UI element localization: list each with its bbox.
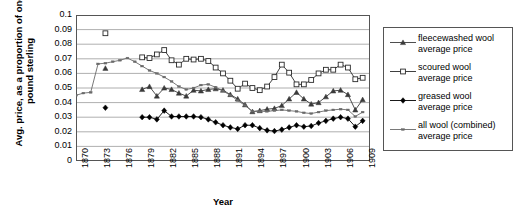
data-point-small-dash — [163, 76, 166, 78]
data-point-open-square — [140, 55, 145, 60]
data-point-small-dash — [347, 109, 350, 111]
data-point-small-dash — [76, 94, 77, 96]
series-small-dash — [76, 57, 364, 117]
legend-label: scoured woolaverage price — [418, 62, 473, 84]
data-point-small-dash — [207, 83, 210, 85]
data-point-open-square — [250, 86, 255, 91]
data-point-filled-diamond — [309, 123, 314, 129]
data-point-filled-diamond — [265, 128, 270, 134]
data-point-filled-triangle — [103, 66, 108, 71]
data-point-filled-diamond — [250, 122, 255, 128]
x-tick-label: 1906 — [345, 148, 355, 168]
legend-label: all wool (combined)average price — [418, 120, 496, 142]
x-tick-label: 1909 — [367, 148, 377, 168]
legend-marker-open-square-icon — [388, 63, 418, 74]
y-tick-label: 0.08 — [32, 39, 72, 48]
data-point-open-square — [309, 78, 314, 83]
legend-label-line1: scoured wool — [418, 62, 473, 73]
data-point-small-dash — [266, 110, 269, 112]
x-tick-label: 1885 — [190, 148, 200, 168]
y-tick-label: 0.02 — [32, 127, 72, 136]
data-point-filled-diamond — [221, 122, 226, 128]
data-point-small-dash — [82, 92, 85, 94]
data-point-open-square — [243, 81, 248, 86]
data-point-filled-triangle — [345, 92, 350, 97]
data-point-open-square — [154, 52, 159, 57]
data-point-open-square — [331, 67, 336, 72]
data-point-filled-diamond — [243, 122, 248, 128]
data-point-small-dash — [229, 94, 232, 96]
data-point-small-dash — [280, 109, 283, 111]
data-point-small-dash — [178, 86, 181, 88]
data-point-open-square — [360, 75, 365, 80]
data-point-small-dash — [310, 113, 313, 115]
data-point-open-square — [279, 62, 284, 67]
y-tick-label: 0.07 — [32, 54, 72, 63]
data-point-filled-diamond — [272, 128, 277, 134]
legend-label: greased woolaverage price — [418, 91, 473, 113]
legend-item: greased woolaverage price — [388, 91, 508, 117]
data-point-filled-diamond — [140, 114, 145, 120]
data-point-filled-diamond — [213, 120, 218, 126]
y-tick-label: 0.06 — [32, 68, 72, 77]
data-point-open-square — [147, 56, 152, 61]
x-tick-label: 1894 — [256, 148, 266, 168]
data-point-open-square — [228, 78, 233, 83]
data-point-filled-diamond — [228, 125, 233, 131]
legend-item: scoured woolaverage price — [388, 62, 508, 88]
data-point-small-dash — [288, 110, 291, 112]
data-point-open-square — [184, 56, 189, 61]
data-point-open-square — [272, 75, 277, 80]
x-tick-label: 1876 — [124, 148, 134, 168]
x-axis-tick-labels: 1870187318761879188218851888189118941897… — [76, 164, 376, 198]
data-point-filled-triangle — [294, 90, 299, 95]
legend-label-line2: average price — [418, 44, 494, 55]
data-point-small-dash — [126, 57, 129, 59]
y-tick-label: 0.04 — [32, 98, 72, 107]
chart-container: Avg. price, as a proportion of one pound… — [0, 0, 521, 216]
x-tick-label: 1879 — [146, 148, 156, 168]
x-axis-title: Year — [76, 196, 370, 207]
data-point-open-square — [162, 48, 167, 53]
data-point-small-dash — [119, 59, 122, 61]
data-point-small-dash — [97, 63, 100, 65]
data-point-open-square — [324, 67, 329, 72]
data-point-small-dash — [325, 110, 328, 112]
data-point-small-dash — [170, 81, 173, 83]
data-point-small-dash — [402, 129, 405, 131]
data-point-small-dash — [214, 86, 217, 88]
x-tick-label: 1891 — [234, 148, 244, 168]
data-point-small-dash — [133, 61, 136, 63]
data-point-small-dash — [295, 110, 298, 112]
data-point-small-dash — [244, 105, 247, 107]
data-point-open-square — [191, 57, 196, 62]
data-point-open-square — [353, 77, 358, 82]
x-tick-label: 1900 — [301, 148, 311, 168]
data-point-filled-diamond — [287, 125, 292, 131]
x-tick-label: 1873 — [102, 148, 112, 168]
data-point-filled-diamond — [331, 116, 336, 122]
data-point-filled-diamond — [257, 125, 262, 131]
data-point-open-square — [294, 82, 299, 87]
data-point-filled-diamond — [198, 114, 203, 120]
x-tick-label: 1903 — [323, 148, 333, 168]
x-tick-label: 1897 — [278, 148, 288, 168]
data-point-filled-diamond — [184, 114, 189, 120]
data-point-open-square — [213, 65, 218, 70]
data-point-small-dash — [192, 87, 195, 89]
data-point-open-square — [301, 82, 306, 87]
data-point-open-square — [206, 59, 211, 64]
data-point-small-dash — [354, 116, 357, 118]
legend-marker-filled-diamond-icon — [388, 92, 418, 103]
data-point-filled-diamond — [191, 114, 196, 120]
data-point-open-square — [401, 69, 406, 74]
data-point-open-square — [265, 84, 270, 89]
legend-item: all wool (combined)average price — [388, 120, 508, 146]
legend-label-line1: all wool (combined) — [418, 120, 496, 131]
x-tick-label: 1882 — [168, 148, 178, 168]
y-tick-label: 0.09 — [32, 25, 72, 34]
data-point-small-dash — [317, 111, 320, 113]
legend-label-line1: greased wool — [418, 91, 473, 102]
data-point-small-dash — [141, 65, 144, 67]
legend-label-line2: average price — [418, 131, 496, 142]
